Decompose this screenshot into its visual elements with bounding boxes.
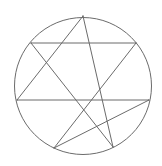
heptagram-figure xyxy=(0,0,162,166)
vertex-F xyxy=(16,99,18,101)
vertex-D xyxy=(112,146,114,148)
diagram-canvas xyxy=(0,0,162,166)
circumscribed-circle xyxy=(15,18,152,155)
vertex-B xyxy=(135,42,137,44)
star-edge-BE xyxy=(54,43,136,148)
vertex-G xyxy=(30,42,32,44)
vertex-E xyxy=(53,147,55,149)
vertex-C xyxy=(148,99,150,101)
vertex-A xyxy=(82,15,84,17)
star-edge-FA xyxy=(17,16,83,100)
heptagram-star xyxy=(16,15,150,149)
star-edge-EC xyxy=(54,100,149,148)
